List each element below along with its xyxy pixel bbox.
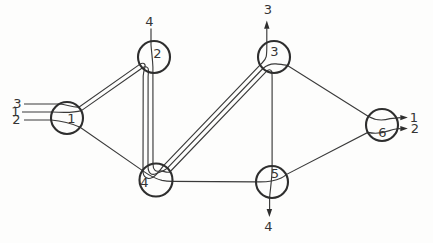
flow-paths bbox=[22, 28, 401, 209]
node6-output2-arrowhead-icon bbox=[400, 126, 408, 131]
node3-output-arrowhead-icon bbox=[264, 20, 269, 28]
diagram-canvas: 1 2 3 4 5 6 3 1 2 4 3 4 1 2 bbox=[0, 0, 433, 243]
node5-output-arrowhead-icon bbox=[267, 209, 273, 217]
node-6-label: 6 bbox=[378, 125, 386, 140]
node-3-label: 3 bbox=[270, 44, 278, 59]
node-2-label: 2 bbox=[153, 46, 161, 61]
node-5-label: 5 bbox=[271, 166, 279, 181]
output-label-2: 2 bbox=[411, 121, 419, 136]
input-label-4: 4 bbox=[145, 14, 153, 29]
nodes bbox=[51, 41, 398, 198]
output-arrowheads bbox=[264, 20, 408, 217]
flow-1-path bbox=[22, 64, 401, 175]
flow-2-path bbox=[24, 120, 401, 182]
node-1-label: 1 bbox=[67, 111, 75, 126]
output-label-3: 3 bbox=[264, 2, 272, 17]
node6-output1-arrowhead-icon bbox=[400, 115, 408, 120]
input-label-2: 2 bbox=[12, 112, 20, 127]
output-label-4: 4 bbox=[264, 219, 272, 234]
node-4-label: 4 bbox=[140, 175, 148, 190]
network-flow-diagram: 1 2 3 4 5 6 3 1 2 4 3 4 1 2 bbox=[0, 0, 433, 243]
node-labels: 1 2 3 4 5 6 bbox=[67, 44, 386, 191]
